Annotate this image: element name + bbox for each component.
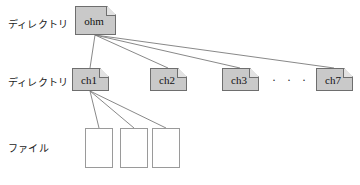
- directory-node-root[interactable]: ohm: [75, 6, 116, 35]
- row-label-directory-top: ディレクトリ: [8, 16, 68, 31]
- directory-node-root-label: ohm: [84, 15, 107, 27]
- directory-node-ch1-label: ch1: [81, 74, 100, 86]
- edge-ch1-to-file-1: [90, 91, 99, 128]
- directory-node-ch3[interactable]: ch3: [222, 68, 259, 91]
- directory-node-ch1[interactable]: ch1: [72, 68, 109, 91]
- file-node[interactable]: [120, 128, 148, 168]
- file-node[interactable]: [85, 128, 113, 168]
- directory-ellipsis: · · ·: [272, 73, 310, 88]
- edge-root-to-ch3: [95, 35, 240, 68]
- row-label-directory-mid: ディレクトリ: [8, 74, 68, 89]
- directory-node-ch2-label: ch2: [159, 74, 178, 86]
- directory-node-ch7-label: ch7: [325, 74, 344, 86]
- file-node[interactable]: [152, 128, 180, 168]
- directory-tree-figure: ディレクトリ ディレクトリ ファイル ohm ch1 ch2 ch3 · · ·…: [0, 0, 360, 185]
- directory-node-ch3-label: ch3: [231, 74, 250, 86]
- row-label-file: ファイル: [8, 140, 49, 155]
- edge-root-to-ch1: [90, 35, 95, 68]
- directory-node-ch2[interactable]: ch2: [150, 68, 187, 91]
